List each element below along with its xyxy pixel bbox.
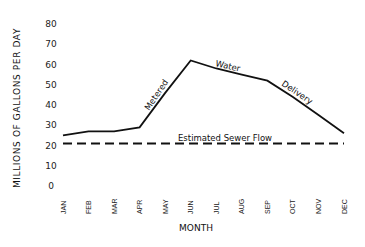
x-tick-label: DEC: [341, 199, 348, 214]
x-tick-label: FEB: [85, 200, 92, 214]
y-tick-label: 60: [45, 60, 57, 70]
x-axis-ticks: JANFEBMARAPRMAYJUNJULAUGSEPOCTNOVDEC: [60, 198, 348, 214]
y-axis-ticks: 01020304050607080: [45, 19, 57, 191]
x-tick-label: JUL: [213, 201, 220, 214]
x-tick-label: NOV: [315, 199, 322, 215]
line-chart: MILLIONS OF GALLONS PER DAY 010203040506…: [0, 0, 365, 247]
y-tick-label: 70: [45, 39, 57, 49]
x-tick-label: SEP: [264, 200, 271, 214]
x-tick-label: AUG: [238, 199, 245, 214]
annotation-metered: Metered: [142, 77, 170, 112]
x-tick-label: MAR: [111, 198, 118, 214]
x-tick-label: MAY: [162, 199, 169, 214]
x-tick-label: JUN: [187, 200, 194, 214]
x-tick-label: JAN: [60, 201, 67, 214]
y-tick-label: 20: [45, 141, 57, 151]
y-tick-label: 10: [45, 161, 57, 171]
annotation-sewer-flow: Estimated Sewer Flow: [178, 133, 272, 143]
y-tick-label: 0: [48, 181, 54, 191]
y-tick-label: 30: [45, 120, 57, 130]
y-tick-label: 80: [45, 19, 57, 29]
x-axis-label: MONTH: [179, 223, 213, 233]
y-tick-label: 40: [45, 100, 57, 110]
y-axis-label: MILLIONS OF GALLONS PER DAY: [12, 28, 22, 188]
y-tick-label: 50: [45, 80, 57, 90]
x-tick-label: OCT: [289, 199, 296, 215]
x-tick-label: APR: [136, 200, 143, 214]
